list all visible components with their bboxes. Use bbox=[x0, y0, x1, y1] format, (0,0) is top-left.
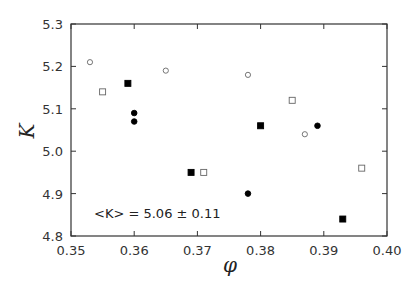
x-tick-label: 0.39 bbox=[309, 243, 338, 258]
filled-square-marker bbox=[188, 169, 194, 175]
filled-circle-marker bbox=[315, 123, 321, 129]
mean-annotation: <K> = 5.06 ± 0.11 bbox=[94, 206, 221, 221]
x-tick-label: 0.35 bbox=[57, 243, 86, 258]
y-tick-label: 5.3 bbox=[42, 17, 63, 32]
filled-square-marker bbox=[258, 123, 264, 129]
open-circle-marker bbox=[163, 68, 168, 73]
open-square-marker bbox=[100, 89, 106, 95]
open-circle-marker bbox=[245, 72, 250, 77]
x-tick-label: 0.37 bbox=[183, 243, 212, 258]
filled-square-marker bbox=[340, 216, 346, 222]
y-tick-label: 4.9 bbox=[42, 187, 63, 202]
y-axis-label: K bbox=[15, 122, 39, 139]
filled-circle-marker bbox=[131, 110, 137, 116]
y-tick-label: 5.0 bbox=[42, 144, 63, 159]
filled-circle-marker bbox=[131, 119, 137, 125]
x-tick-label: 0.40 bbox=[373, 243, 402, 258]
y-tick-label: 5.2 bbox=[42, 59, 63, 74]
x-axis-label: φ bbox=[223, 253, 237, 277]
x-tick-label: 0.38 bbox=[246, 243, 275, 258]
open-square-marker bbox=[289, 97, 295, 103]
plot-area-border bbox=[71, 24, 387, 236]
y-tick-label: 4.8 bbox=[42, 229, 63, 244]
open-circle-marker bbox=[87, 60, 92, 65]
scatter-chart: 0.350.360.370.380.390.40 4.84.95.05.15.2… bbox=[0, 0, 418, 286]
open-circle-marker bbox=[302, 132, 307, 137]
y-tick-label: 5.1 bbox=[42, 102, 63, 117]
filled-circle-marker bbox=[245, 191, 251, 197]
open-square-marker bbox=[359, 165, 365, 171]
plot-frame bbox=[71, 24, 387, 236]
open-square-marker bbox=[201, 169, 207, 175]
filled-square-marker bbox=[125, 80, 131, 86]
x-axis: 0.350.360.370.380.390.40 bbox=[57, 24, 402, 258]
x-tick-label: 0.36 bbox=[120, 243, 149, 258]
data-points bbox=[87, 60, 364, 222]
